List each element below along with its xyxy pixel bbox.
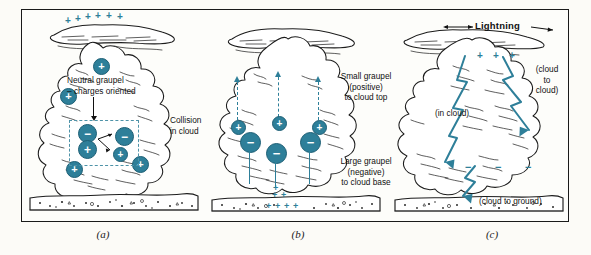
cloud-base-minus-3: −	[525, 162, 531, 173]
rise-arrow-1	[234, 76, 240, 82]
cloud-to-cloud-label: (cloud to cloud)	[527, 64, 567, 96]
anvil-plus-1: +	[477, 51, 483, 61]
panel-b-artwork	[204, 10, 387, 223]
panel-c: Lightning + + + − − − (cloud to cloud) (…	[387, 10, 570, 221]
ground-plus-1: +	[266, 202, 271, 211]
panel-caption-c: (c)	[472, 228, 512, 240]
rise-stem-1	[237, 82, 238, 120]
cloud-base-plus-2: +	[272, 191, 277, 200]
large-graupel-negative-2: −	[266, 143, 287, 164]
panel-caption-a: (a)	[83, 228, 123, 240]
anvil-plus-3: +	[509, 51, 515, 61]
panel-b: + + + − − − + + + + + + + Small graupel …	[204, 10, 387, 221]
large-graupel-negative-1: −	[240, 132, 261, 153]
rise-stem-3	[318, 82, 319, 120]
fall-stem-3	[309, 151, 310, 184]
anvil-plus-2: +	[493, 51, 499, 61]
fall-stem-1	[249, 151, 250, 184]
panel-a: + + + + + + + + + + Neutral graupel – ch…	[22, 10, 204, 221]
ground-plus-3: +	[284, 202, 289, 211]
panel-caption-b: (b)	[278, 228, 318, 240]
cloud-base-plus-3: +	[281, 191, 286, 200]
figure-container: + + + + + + + + + + Neutral graupel – ch…	[0, 0, 591, 255]
cloud-base-minus-2: −	[495, 162, 501, 173]
ground-plus-2: +	[275, 202, 280, 211]
rise-stem-2	[278, 77, 279, 117]
rise-arrow-3	[315, 76, 321, 82]
lightning-title: Lightning	[475, 21, 520, 32]
figure-frame: + + + + + + + + + + Neutral graupel – ch…	[21, 9, 569, 222]
cloud-to-ground-label: (cloud to ground)	[479, 196, 569, 207]
rise-arrow-2	[275, 71, 281, 77]
in-cloud-label: (in cloud)	[435, 108, 487, 119]
small-graupel-positive-2: +	[272, 116, 287, 131]
cloud-base-minus-1: −	[465, 162, 471, 173]
ground-plus-4: +	[293, 202, 298, 211]
large-graupel-negative-3: −	[300, 132, 321, 153]
